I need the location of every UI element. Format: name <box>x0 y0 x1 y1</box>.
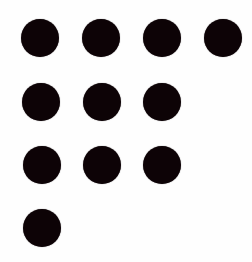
dot-3 <box>143 19 181 57</box>
dot-11 <box>23 209 61 247</box>
dot-4 <box>204 19 242 57</box>
dot-2 <box>82 19 120 57</box>
dot-6 <box>83 83 121 121</box>
dot-8 <box>23 146 61 184</box>
dot-canvas <box>0 0 252 262</box>
dot-9 <box>83 146 121 184</box>
dot-10 <box>143 146 181 184</box>
dot-5 <box>22 83 60 121</box>
dot-1 <box>21 19 59 57</box>
dot-7 <box>143 83 181 121</box>
